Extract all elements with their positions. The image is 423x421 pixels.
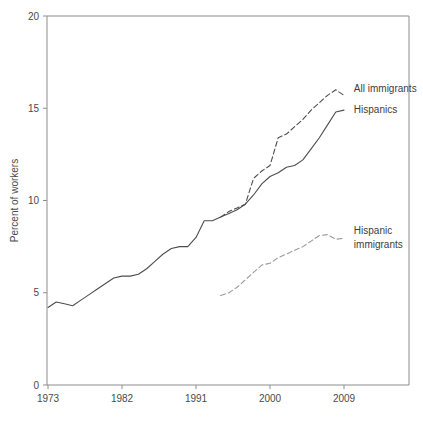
series-line-all-immigrants	[221, 90, 344, 217]
y-tick-label: 10	[28, 195, 40, 206]
chart-figure: 0510152019731982199120002009 All immigra…	[0, 0, 423, 421]
y-tick-label: 20	[28, 11, 40, 22]
plot-frame	[47, 16, 409, 385]
axis-ticks	[43, 16, 344, 389]
y-axis-title-text: Percent of workers	[9, 159, 20, 242]
y-tick-label: 15	[28, 103, 40, 114]
data-series	[48, 90, 344, 308]
y-axis-title: Percent of workers	[9, 159, 20, 242]
line-chart: 0510152019731982199120002009 All immigra…	[0, 0, 423, 421]
x-tick-label: 2009	[333, 393, 356, 404]
y-tick-label: 5	[33, 287, 39, 298]
series-label: All immigrants	[354, 83, 417, 94]
series-annotations: All immigrantsHispanicsHispanicimmigrant…	[354, 83, 417, 250]
x-tick-label: 2000	[259, 393, 282, 404]
series-label: Hispanic	[354, 225, 392, 236]
x-tick-label: 1973	[37, 393, 60, 404]
series-line-hispanic-immigrants	[221, 235, 344, 296]
y-tick-label: 0	[33, 380, 39, 391]
series-label: Hispanics	[354, 104, 397, 115]
axis-tick-labels: 0510152019731982199120002009	[28, 11, 356, 405]
plot-border	[47, 16, 409, 385]
x-tick-label: 1982	[111, 393, 134, 404]
x-tick-label: 1991	[185, 393, 208, 404]
series-label: immigrants	[354, 239, 403, 250]
series-line-hispanics	[48, 110, 344, 307]
